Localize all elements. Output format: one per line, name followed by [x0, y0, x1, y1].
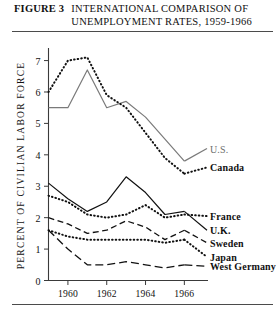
series-line-canada: [49, 57, 185, 173]
series-label-west-germany: West Germany: [210, 261, 276, 272]
footer-divider: [12, 304, 273, 305]
series-line-japan: [49, 230, 185, 243]
series-line-u-s: [49, 70, 185, 161]
series-leader-u-k: [184, 211, 207, 230]
series-line-u-k: [49, 177, 185, 215]
series-leader-west-germany: [184, 265, 207, 267]
series-leader-japan: [184, 240, 207, 257]
y-tick-label: 3: [27, 181, 41, 192]
y-tick-label: 0: [27, 275, 41, 286]
x-tick-label: 1966: [174, 288, 194, 299]
chart-plot-area: 012345671960196219641966U.S.CanadaFrance…: [0, 0, 279, 314]
series-label-sweden: Sweden: [210, 237, 244, 248]
y-tick-label: 1: [27, 244, 41, 255]
series-label-france: France: [210, 211, 241, 222]
series-label-u-s: U.S.: [210, 143, 228, 154]
series-label-canada: Canada: [210, 162, 244, 173]
y-tick-label: 2: [27, 212, 41, 223]
y-tick-label: 4: [27, 149, 41, 160]
y-tick-label: 5: [27, 118, 41, 129]
series-leader-sweden: [184, 230, 207, 243]
figure-container: FIGURE 3 INTERNATIONAL COMPARISON OF UNE…: [0, 0, 279, 314]
series-label-u-k: U.K.: [210, 225, 231, 236]
x-tick-label: 1960: [58, 288, 78, 299]
series-leader-canada: [184, 167, 207, 173]
chart-axes: [49, 48, 209, 281]
x-tick-label: 1962: [97, 288, 117, 299]
series-leader-u-s: [184, 149, 207, 162]
y-tick-label: 7: [27, 55, 41, 66]
y-tick-label: 6: [27, 86, 41, 97]
x-tick-label: 1964: [136, 288, 156, 299]
